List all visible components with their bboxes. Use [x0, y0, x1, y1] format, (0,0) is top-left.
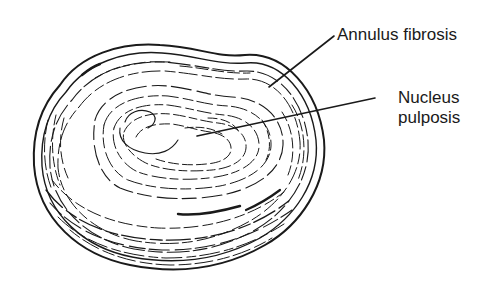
- nucleus-leader-line: [197, 98, 375, 136]
- annulus-fibrosis-label: Annulus fibrosis: [337, 25, 457, 45]
- intervertebral-disc-diagram: Annulus fibrosis Nucleus pulposis: [0, 0, 504, 286]
- nucleus-label-line1: Nucleus: [398, 88, 460, 108]
- nucleus-label-line2: pulposis: [398, 108, 460, 128]
- nucleus-pulposis-label: Nucleus pulposis: [398, 88, 460, 128]
